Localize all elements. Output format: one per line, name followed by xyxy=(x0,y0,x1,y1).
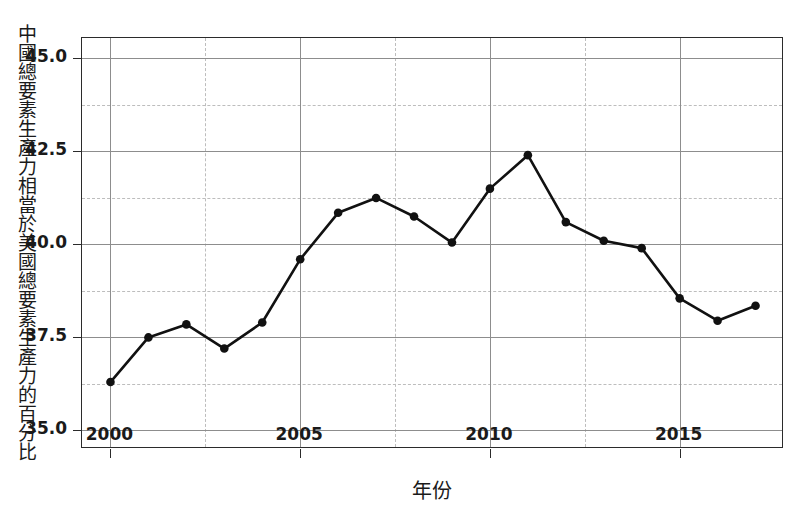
data-point-marker: 2007: 41.25 xyxy=(372,194,381,203)
y-tick-label: 37.5 xyxy=(0,325,67,345)
data-point-marker: 2009: 40.05 xyxy=(448,238,457,247)
data-point-marker: 2013: 40.1 xyxy=(599,236,608,245)
y-tick-label: 40.0 xyxy=(0,232,67,252)
data-point-marker: 2008: 40.75 xyxy=(410,212,419,221)
series-line-chart: 2000: 36.32001: 37.52002: 37.852003: 37.… xyxy=(82,38,782,447)
y-tick-mark xyxy=(73,244,82,245)
y-tick-label: 35.0 xyxy=(0,418,67,438)
data-point-marker: 2016: 37.95 xyxy=(713,316,722,325)
chart-page: 中國總要素生產力相當於美國總要素生產力的百分比 2000: 36.32001: … xyxy=(0,0,798,516)
data-point-marker: 2001: 37.5 xyxy=(144,333,153,342)
x-tick-mark xyxy=(490,449,491,458)
plot-area: 2000: 36.32001: 37.52002: 37.852003: 37.… xyxy=(81,37,783,448)
plot-inner: 2000: 36.32001: 37.52002: 37.852003: 37.… xyxy=(82,38,782,447)
data-point-marker: 2000: 36.3 xyxy=(106,378,115,387)
x-tick-mark xyxy=(300,449,301,458)
y-tick-label: 42.5 xyxy=(0,139,67,159)
data-point-marker: 2005: 39.6 xyxy=(296,255,305,264)
data-point-marker: 2012: 40.6 xyxy=(562,218,571,227)
data-point-marker: 2015: 38.55 xyxy=(675,294,684,303)
x-tick-label: 2015 xyxy=(655,424,702,444)
data-point-marker: 2014: 39.9 xyxy=(637,244,646,253)
x-tick-mark xyxy=(110,449,111,458)
series-line xyxy=(110,155,755,382)
y-tick-mark xyxy=(73,151,82,152)
data-point-marker: 2004: 37.9 xyxy=(258,318,267,327)
y-tick-mark xyxy=(73,337,82,338)
x-tick-label: 2000 xyxy=(86,424,133,444)
data-point-marker: 2006: 40.85 xyxy=(334,209,343,218)
data-point-marker: 2002: 37.85 xyxy=(182,320,191,329)
data-point-marker: 2010: 41.5 xyxy=(486,184,495,193)
x-tick-label: 2005 xyxy=(276,424,323,444)
x-axis-title: 年份 xyxy=(81,475,783,504)
data-point-marker: 2017: 38.35 xyxy=(751,302,760,311)
y-tick-mark xyxy=(73,58,82,59)
x-tick-mark xyxy=(680,449,681,458)
data-point-marker: 2003: 37.2 xyxy=(220,344,229,353)
x-tick-label: 2010 xyxy=(465,424,512,444)
y-tick-mark xyxy=(73,430,82,431)
y-tick-label: 45.0 xyxy=(0,46,67,66)
data-point-marker: 2011: 42.4 xyxy=(524,151,533,160)
